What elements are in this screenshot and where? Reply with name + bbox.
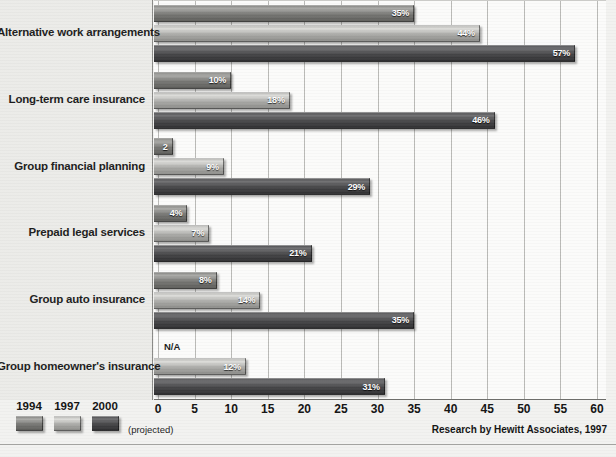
x-tick-label: 20	[298, 402, 311, 416]
plot-area: 35%44%57%10%18%46%29%29%4%7%21%8%14%35%N…	[154, 0, 606, 400]
bar-1997-3: 9%	[154, 158, 224, 175]
category-label: Prepaid legal services	[0, 226, 145, 238]
legend-swatch-2000	[92, 416, 119, 431]
bar-value-na: N/A	[164, 341, 180, 352]
legend-projected-note: (projected)	[128, 424, 173, 435]
x-axis-tick-labels: 051015202530354045505560	[154, 400, 606, 422]
chart-legend: (projected) 199419972000	[8, 400, 154, 450]
bar-value-label: 35%	[392, 8, 409, 18]
legend-year-label: 1994	[8, 400, 50, 412]
category-label: Group homeowner's insurance	[0, 360, 145, 372]
legend-entry-1997: 1997	[46, 400, 88, 431]
bar-value-label: 44%	[458, 28, 475, 38]
bar-value-label: 35%	[392, 315, 409, 325]
category-label: Alternative work arrangements	[0, 26, 145, 38]
category-label: Long-term care insurance	[0, 93, 145, 105]
x-tick-label: 0	[155, 402, 162, 416]
bar-value-label: 29%	[348, 182, 365, 192]
bar-1994-2: 10%	[154, 72, 231, 89]
bar-value-label: 10%	[209, 75, 226, 85]
category-label: Group auto insurance	[0, 293, 145, 305]
bar-1997-1: 44%	[154, 25, 480, 42]
bar-value-label: 7%	[192, 228, 205, 238]
bar-1994-1: 35%	[154, 5, 414, 22]
bar-value-label: 2	[163, 142, 168, 152]
bar-value-label: 31%	[362, 382, 379, 392]
bar-value-label: 4%	[170, 208, 183, 218]
x-tick-label: 5	[191, 402, 198, 416]
x-tick-label: 60	[590, 402, 603, 416]
bar-1997-5: 14%	[154, 292, 260, 309]
bar-value-label: 8%	[199, 275, 212, 285]
x-tick-label: 10	[224, 402, 237, 416]
category-label-column: Alternative work arrangementsLong-term c…	[0, 0, 153, 400]
footer-divider	[0, 444, 616, 445]
bar-value-label: 21%	[289, 248, 306, 258]
legend-year-label: 1997	[46, 400, 88, 412]
plot-top-border	[154, 0, 606, 1]
legend-year-label: 2000	[84, 400, 126, 412]
bar-1997-6: 12%	[154, 358, 246, 375]
x-tick-label: 25	[334, 402, 347, 416]
source-credit: Research by Hewitt Associates, 1997	[432, 424, 607, 435]
bar-value-label: 18%	[267, 95, 284, 105]
legend-swatch-1997	[54, 416, 81, 431]
category-label: Group financial planning	[0, 160, 145, 172]
bar-2000-6: 31%	[154, 378, 385, 395]
bar-1997-4: 7%	[154, 225, 209, 242]
gridline-60	[597, 0, 598, 400]
legend-entry-1994: 1994	[8, 400, 50, 431]
bar-2000-3: 29%	[154, 178, 370, 195]
x-tick-label: 35	[407, 402, 420, 416]
bar-2000-5: 35%	[154, 312, 414, 329]
bar-value-label: 57%	[553, 48, 570, 58]
x-tick-label: 45	[481, 402, 494, 416]
x-tick-label: 30	[371, 402, 384, 416]
bar-value-label: 12%	[223, 362, 240, 372]
bar-1994-3: 2	[154, 138, 173, 155]
bar-2000-2: 46%	[154, 112, 495, 129]
legend-swatch-1994	[16, 416, 43, 431]
bar-value-label: 14%	[238, 295, 255, 305]
bar-chart: Alternative work arrangementsLong-term c…	[0, 0, 616, 457]
bar-1994-5: 8%	[154, 272, 217, 289]
bar-value-label: 46%	[472, 115, 489, 125]
bar-1994-4: 4%	[154, 205, 187, 222]
x-tick-label: 15	[261, 402, 274, 416]
bar-1997-2: 18%	[154, 92, 290, 109]
x-tick-label: 50	[517, 402, 530, 416]
bar-value-label: 9%	[206, 162, 219, 172]
legend-entry-2000: 2000	[84, 400, 126, 431]
x-tick-label: 55	[554, 402, 567, 416]
bar-2000-4: 21%	[154, 245, 312, 262]
x-tick-label: 40	[444, 402, 457, 416]
bar-2000-1: 57%	[154, 45, 575, 62]
